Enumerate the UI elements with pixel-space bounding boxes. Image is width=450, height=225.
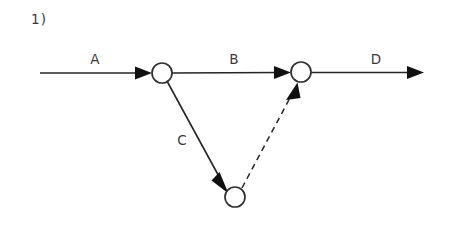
edge-c: C	[168, 82, 229, 194]
node-circle-n1[interactable]	[152, 63, 172, 83]
figure-number-label: 1)	[31, 11, 47, 27]
edge-b: B	[172, 51, 291, 79]
edge-dummy-line	[242, 94, 292, 188]
edge-a-label: A	[90, 51, 100, 67]
edge-a: A	[40, 51, 152, 80]
edge-a-arrowhead-icon	[135, 67, 152, 80]
edge-b-arrowhead-icon	[274, 66, 291, 79]
edge-dummy-dashed	[242, 83, 301, 189]
edge-d: D	[311, 51, 424, 79]
edge-d-arrowhead-icon	[407, 66, 424, 79]
edge-c-label: C	[177, 132, 187, 148]
node-circle-n3[interactable]	[225, 187, 245, 207]
edge-c-arrowhead-icon	[212, 172, 229, 194]
edge-d-label: D	[371, 51, 382, 67]
node-circle-n2[interactable]	[291, 62, 311, 82]
edge-b-line	[172, 73, 282, 74]
edge-b-label: B	[229, 51, 239, 67]
edge-dummy-arrowhead-icon	[286, 83, 301, 101]
figure-canvas: A B D C 1)	[0, 0, 450, 225]
edge-c-line	[168, 82, 223, 182]
network-diagram: A B D C 1)	[0, 0, 450, 225]
